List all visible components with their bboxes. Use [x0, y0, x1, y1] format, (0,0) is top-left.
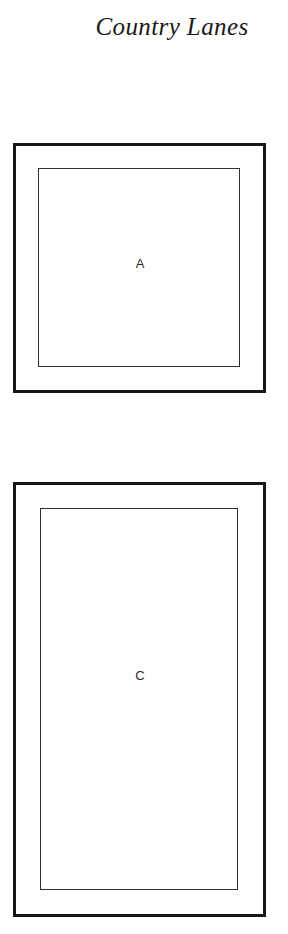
diagram-frame-c: C	[13, 482, 266, 917]
diagram-label-c: C	[135, 669, 144, 683]
page-title: Country Lanes	[0, 12, 288, 42]
diagram-frame-a: A	[13, 143, 266, 393]
diagram-frame-c-inner-border	[40, 508, 238, 890]
diagram-label-a: A	[136, 257, 145, 271]
page-canvas: Country Lanes A C	[0, 0, 288, 934]
